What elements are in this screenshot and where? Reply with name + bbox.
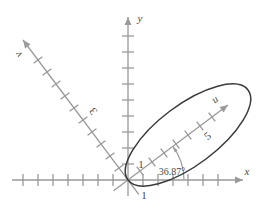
y-axis-label: y	[137, 12, 143, 24]
x-tick-label-1: 1	[141, 189, 147, 201]
v-axis-arrowhead	[20, 38, 30, 48]
u-axis-label: u	[209, 92, 221, 105]
v-axis-group: v 3	[8, 29, 154, 206]
u-tick-label-5: 5	[201, 129, 213, 142]
u-axis-arrowhead	[220, 102, 230, 112]
angle-arc-arrowhead	[173, 146, 178, 152]
v-axis-line	[23, 40, 139, 194]
x-axis-arrowhead	[235, 177, 243, 184]
v-tick-label-3: 3	[86, 105, 99, 117]
x-axis-label: x	[244, 165, 250, 177]
y-axis-arrowhead	[125, 17, 132, 25]
ellipse-uv-diagram: x 1 y 1 u	[0, 0, 270, 213]
v-axis-label: v	[12, 49, 25, 60]
